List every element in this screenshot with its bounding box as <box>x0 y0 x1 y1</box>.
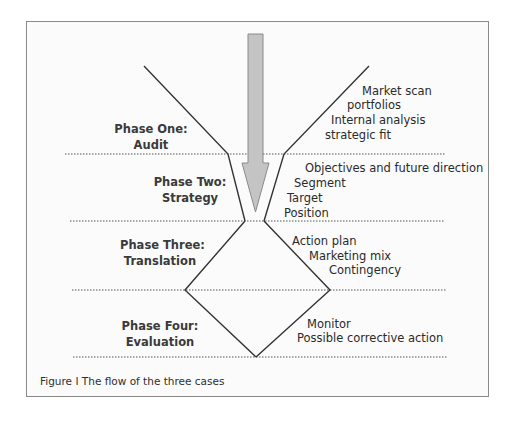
phase-one-label: Phase One: Audit <box>96 121 206 153</box>
flow-diagram <box>0 0 516 423</box>
phase-four-title: Phase Four: <box>120 318 200 334</box>
phase-four-subtitle: Evaluation <box>120 334 200 350</box>
phase-two-label: Phase Two: Strategy <box>150 174 230 206</box>
phase-three-subtitle: Translation <box>120 253 200 269</box>
annotation-strategic-fit: strategic fit <box>325 128 391 142</box>
annotation-action-plan: Action plan <box>292 234 357 248</box>
phase-three-label: Phase Three: Translation <box>120 237 200 269</box>
phase-one-title: Phase One: <box>96 121 206 137</box>
annotation-marketing-mix: Marketing mix <box>309 249 391 263</box>
figure-caption: Figure I The flow of the three cases <box>40 375 224 387</box>
phase-two-title: Phase Two: <box>150 174 230 190</box>
annotation-position: Position <box>284 206 329 220</box>
annotation-corrective-action: Possible corrective action <box>297 331 443 345</box>
annotation-segment: Segment <box>294 176 346 190</box>
annotation-portfolios: portfolios <box>347 98 401 112</box>
annotation-monitor: Monitor <box>307 317 351 331</box>
down-arrow-icon <box>242 34 269 212</box>
annotation-objectives: Objectives and future direction <box>305 161 483 175</box>
annotation-internal-analysis: Internal analysis <box>331 113 426 127</box>
phase-three-title: Phase Three: <box>120 237 200 253</box>
annotation-market-scan: Market scan <box>362 84 432 98</box>
phase-two-subtitle: Strategy <box>150 190 230 206</box>
phase-one-subtitle: Audit <box>96 137 206 153</box>
phase-four-label: Phase Four: Evaluation <box>120 318 200 350</box>
annotation-target: Target <box>287 191 323 205</box>
annotation-contingency: Contingency <box>329 263 401 277</box>
